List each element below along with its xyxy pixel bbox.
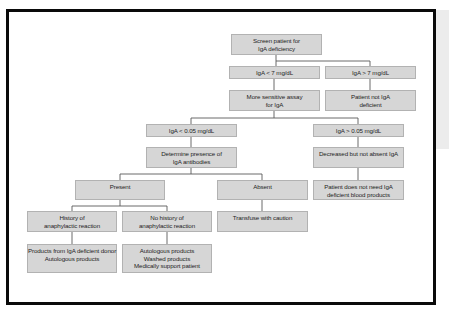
node-iga-gt-7: IgA > 7 mg/dL [325, 66, 416, 79]
node-text: Decreased but not absent IgA [319, 150, 398, 158]
node-text: IgA < 7 mg/dL [256, 69, 293, 77]
node-text: Determine presence of [161, 150, 222, 158]
node-sensitive-assay: More sensitive assay for IgA [229, 90, 320, 111]
node-text: deficient [359, 101, 381, 109]
node-no-history-anaphylaxis: No history of anaphylactic reaction [122, 211, 212, 232]
node-text: Transfuse with caution [233, 214, 292, 222]
node-text: for IgA [266, 101, 284, 109]
node-iga-lt-005: IgA < 0.05 mg/dL [146, 124, 237, 137]
node-not-deficient: Patient not IgA deficient [325, 90, 416, 111]
node-text: Washed products [144, 255, 190, 263]
node-history-anaphylaxis: History of anaphylactic reaction [27, 211, 117, 232]
node-screen-patient: Screen patient for IgA deficiency [231, 34, 322, 55]
node-decreased-not-absent: Decreased but not absent IgA [313, 147, 404, 168]
node-text: anaphylactic reaction [44, 222, 100, 230]
node-text: deficient blood products [327, 191, 390, 199]
node-text: Products from IgA deficient donor [28, 247, 116, 255]
node-iga-lt-7: IgA < 7 mg/dL [229, 66, 320, 79]
node-text: Autologous products [140, 247, 195, 255]
node-products-donor: Products from IgA deficient donor Autolo… [27, 244, 117, 273]
node-text: Autologous products [45, 255, 100, 263]
flowchart-canvas: Screen patient for IgA deficiency IgA < … [0, 0, 449, 311]
node-iga-gt-005: IgA > 0.05 mg/dL [313, 124, 404, 137]
node-text: IgA antibodies [173, 158, 210, 166]
node-text: IgA > 7 mg/dL [352, 69, 389, 77]
node-text: More sensitive assay [247, 93, 303, 101]
node-absent: Absent [217, 180, 308, 200]
node-text: IgA < 0.05 mg/dL [169, 127, 214, 135]
node-text: Patient does not need IgA [324, 183, 393, 191]
node-determine-antibodies: Determine presence of IgA antibodies [146, 147, 237, 168]
node-no-need-products: Patient does not need IgA deficient bloo… [313, 180, 404, 200]
node-text: anaphylactic reaction [139, 222, 195, 230]
node-text: History of [59, 214, 84, 222]
node-text: Medically support patient [134, 262, 200, 270]
node-text: Present [110, 183, 131, 191]
node-text: IgA > 0.05 mg/dL [336, 127, 381, 135]
node-text: Patient not IgA [351, 93, 390, 101]
node-text: Screen patient for [253, 37, 300, 45]
node-transfuse-caution: Transfuse with caution [217, 211, 308, 232]
node-text: Absent [253, 183, 272, 191]
node-text: No history of [150, 214, 183, 222]
node-text: IgA deficiency [258, 45, 295, 53]
node-present: Present [75, 180, 165, 200]
node-products-autologous: Autologous products Washed products Medi… [122, 244, 212, 273]
